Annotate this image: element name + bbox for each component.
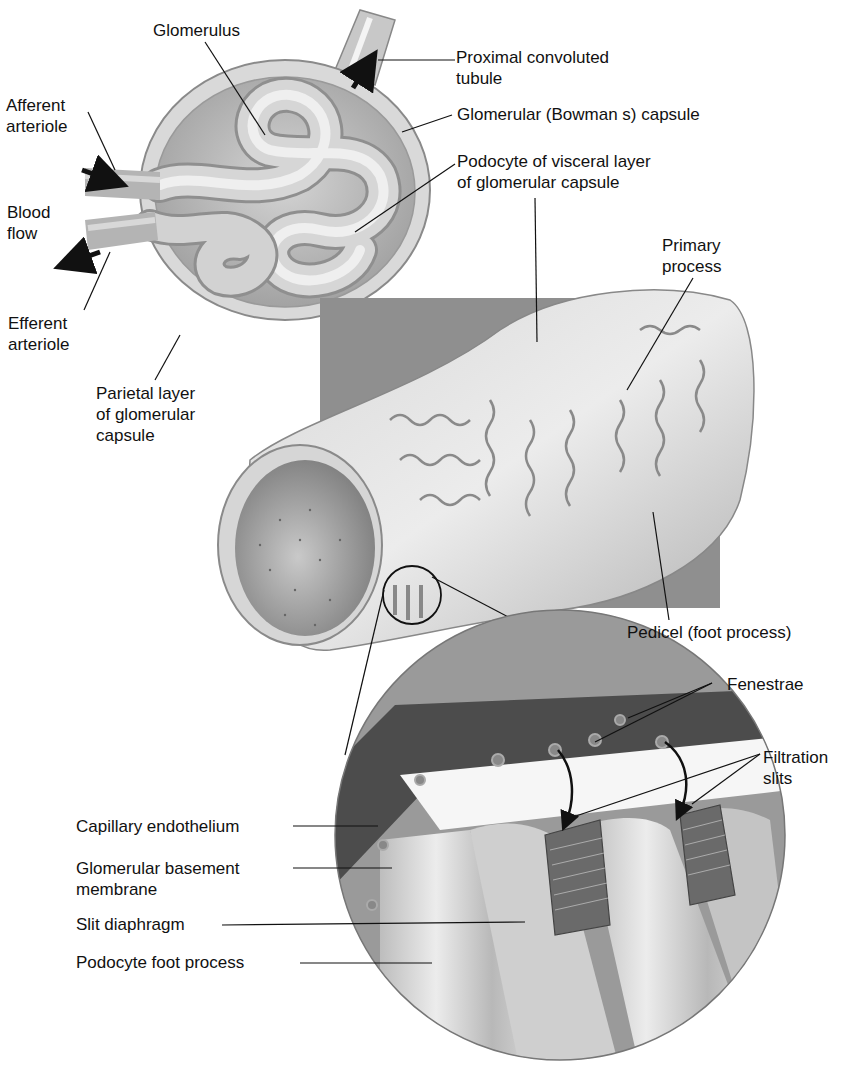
- label-filtration-slits: Filtration slits: [763, 747, 828, 789]
- label-slit-diaphragm: Slit diaphragm: [76, 914, 185, 935]
- renal-corpuscle-panel: [72, 10, 430, 320]
- label-blood-flow: Blood flow: [7, 202, 50, 244]
- capillary-panel: [218, 290, 754, 650]
- label-fenestrae: Fenestrae: [727, 674, 804, 695]
- label-glomerular-basement-membrane: Glomerular basement membrane: [76, 858, 239, 900]
- blood-out-arrow-icon: [72, 252, 100, 262]
- label-pedicel: Pedicel (foot process): [627, 622, 791, 643]
- illustration: [0, 0, 846, 1069]
- filtration-membrane-panel: [330, 577, 800, 1069]
- label-glomerulus: Glomerulus: [153, 20, 240, 41]
- label-afferent-arteriole: Afferent arteriole: [6, 95, 67, 137]
- label-glomerular-capsule: Glomerular (Bowman s) capsule: [457, 104, 700, 125]
- label-podocyte-visceral-layer: Podocyte of visceral layer of glomerular…: [457, 151, 651, 193]
- renal-corpuscle-diagram: Glomerulus Afferent arteriole Blood flow…: [0, 0, 846, 1069]
- label-primary-process: Primary process: [662, 235, 722, 277]
- label-parietal-layer: Parietal layer of glomerular capsule: [96, 383, 195, 446]
- label-proximal-convoluted-tubule: Proximal convoluted tubule: [456, 47, 609, 89]
- label-capillary-endothelium: Capillary endothelium: [76, 816, 239, 837]
- label-efferent-arteriole: Efferent arteriole: [8, 313, 69, 355]
- label-podocyte-foot-process: Podocyte foot process: [76, 952, 244, 973]
